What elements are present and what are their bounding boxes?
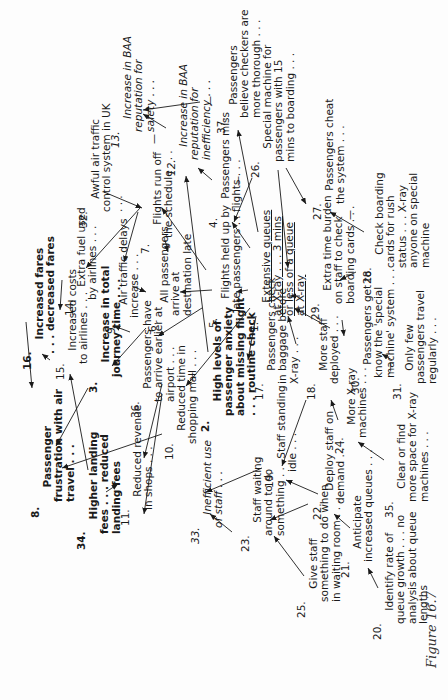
minus-sign: — — [232, 176, 243, 186]
minus-sign: — — [384, 362, 395, 372]
minus-sign: — — [344, 210, 355, 220]
node-37: 37.Passengers believe checkers are more … — [216, 10, 274, 134]
node-17: 17.Passengers check in baggage before X-… — [254, 277, 312, 400]
minus-sign: — — [186, 372, 197, 382]
node-35: 35.Clear or find more space for X-ray ma… — [384, 392, 442, 518]
node-23: 23.Staff waiting around to do something … — [240, 457, 298, 552]
node-34: 34.Higher landing fees . . . reduced lan… — [76, 432, 134, 550]
node-28: 28.Check boarding cards for rush status … — [362, 172, 443, 284]
minus-sign: — — [148, 134, 159, 144]
rotated-page: 1.Extensive queues at X-ray . . . 3 mins… — [0, 0, 448, 700]
node-32: 32.Awful air traffic control system in U… — [78, 103, 136, 228]
node-5: 5.Flights held up by late passengers . .… — [208, 205, 254, 328]
node-25: 25.Give staff something to do when in wa… — [296, 484, 354, 618]
figure-caption: Figure 16.7 — [424, 591, 439, 668]
node-36: 36.Passengers have to arrive earlier at … — [130, 300, 188, 418]
node-33: 33.Inefficient use of staff . . . — [190, 440, 236, 544]
minus-sign: — — [204, 96, 215, 106]
node-16: 16.Increased fares . . . decreased fares — [22, 236, 68, 370]
node-31: 31.Only few passengers travel regularly … — [392, 290, 448, 400]
